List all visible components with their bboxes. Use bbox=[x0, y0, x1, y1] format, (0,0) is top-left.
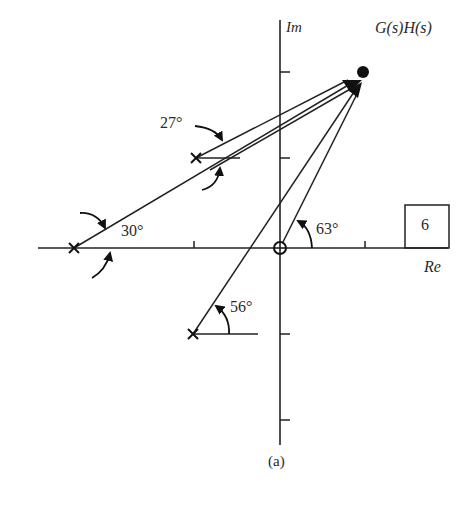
poles bbox=[69, 153, 201, 339]
root-locus-diagram bbox=[0, 0, 470, 521]
function-label: G(s)H(s) bbox=[375, 19, 432, 37]
box-number: 6 bbox=[421, 216, 429, 234]
real-axis bbox=[38, 241, 448, 248]
zero-origin-marker bbox=[274, 242, 286, 254]
real-axis-label: Re bbox=[424, 258, 441, 276]
angle-label-63: 63° bbox=[316, 220, 338, 238]
angle-label-30: 30° bbox=[121, 222, 143, 240]
imag-axis-label: Im bbox=[286, 19, 302, 36]
test-point-dot bbox=[357, 66, 369, 78]
vector-lines bbox=[74, 80, 357, 334]
figure-caption: (a) bbox=[268, 453, 285, 470]
angle-label-56: 56° bbox=[230, 298, 252, 316]
angle-label-27: 27° bbox=[160, 114, 182, 132]
